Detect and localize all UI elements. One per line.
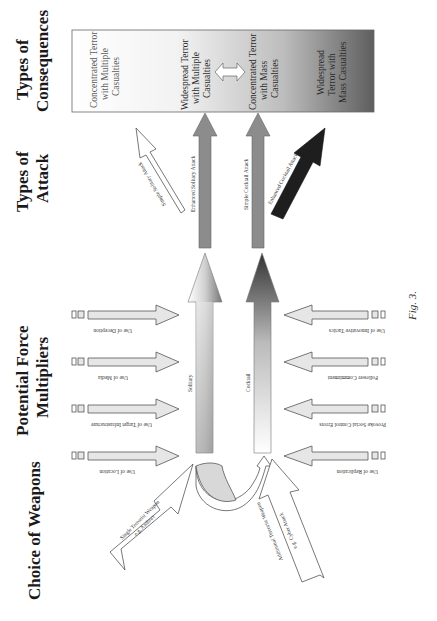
svg-text:with Multiple: with Multiple bbox=[100, 48, 110, 100]
header-types-of-consequences-line1: Types of bbox=[13, 39, 32, 100]
multipliers-left: Use of Deception Use of Media Use of Tar… bbox=[72, 305, 179, 475]
svg-text:Use of Innovative Tactics: Use of Innovative Tactics bbox=[329, 328, 385, 334]
multiplier-use-of-location: Use of Location bbox=[72, 446, 179, 475]
multiplier-follower-commitment: Follower Commitment bbox=[284, 352, 385, 381]
svg-text:with Multiple: with Multiple bbox=[191, 52, 201, 104]
svg-text:Mass Casualties: Mass Casualties bbox=[338, 41, 348, 103]
header-types-of-attack-line1: Types of bbox=[13, 151, 32, 212]
svg-text:Use of Target Infrastructure: Use of Target Infrastructure bbox=[90, 422, 152, 428]
arrow-cocktail-path: Cocktail bbox=[245, 253, 279, 453]
svg-text:Follower Commitment: Follower Commitment bbox=[327, 375, 378, 381]
arrow-enhanced-cocktail-attack: Enhanced Cocktail Attack bbox=[267, 128, 325, 219]
svg-text:Simple Cocktail Attack: Simple Cocktail Attack bbox=[243, 158, 249, 210]
multiplier-use-of-replication: Use of Replication bbox=[284, 446, 385, 475]
arrow-single-terrorist-weapon: Single Terrorist Weapon e.g. Anthrax bbox=[110, 464, 193, 570]
headers: Choice of Weapons Potential Force Multip… bbox=[13, 10, 52, 600]
multiplier-use-of-deception: Use of Deception bbox=[72, 305, 179, 334]
svg-text:Use of Media: Use of Media bbox=[98, 375, 128, 381]
svg-text:Simple Solitary Attack: Simple Solitary Attack bbox=[136, 161, 166, 208]
arrow-solitary-path: Solitary bbox=[187, 253, 222, 453]
consequences-box: Concentrated Terror with Multiple Casual… bbox=[72, 30, 374, 112]
svg-text:Concentrated Terror: Concentrated Terror bbox=[248, 33, 258, 110]
arrow-enhanced-solitary-attack: Enhanced Solitary Attack bbox=[190, 113, 217, 248]
multiplier-use-of-media: Use of Media bbox=[72, 352, 179, 381]
svg-text:Provoke Social Control Errors: Provoke Social Control Errors bbox=[319, 422, 386, 428]
multiplier-provoke-social-control-errors: Provoke Social Control Errors bbox=[284, 399, 386, 428]
svg-text:Use of Location: Use of Location bbox=[99, 469, 135, 475]
svg-text:Use of Deception: Use of Deception bbox=[93, 328, 132, 334]
svg-text:Cocktail: Cocktail bbox=[245, 373, 251, 392]
figure-caption: Fig. 3. bbox=[406, 291, 418, 321]
svg-text:with Mass: with Mass bbox=[259, 60, 269, 100]
svg-text:Casualties: Casualties bbox=[111, 57, 121, 96]
header-choice-of-weapons: Choice of Weapons bbox=[25, 461, 44, 600]
svg-text:Enhanced Solitary Attack: Enhanced Solitary Attack bbox=[190, 156, 196, 212]
svg-text:Casualties: Casualties bbox=[202, 59, 212, 98]
svg-text:Solitary: Solitary bbox=[187, 374, 193, 392]
svg-text:Concentrated Terror: Concentrated Terror bbox=[89, 31, 99, 108]
arrow-additional-terrorist-weapon: Additional Terrorist Weapon e.g. Cyber A… bbox=[255, 459, 324, 582]
header-types-of-consequences-line2: Consequences bbox=[33, 10, 52, 112]
arrow-simple-solitary-attack: Simple Solitary Attack bbox=[136, 128, 185, 213]
svg-text:Casualties: Casualties bbox=[270, 59, 280, 98]
svg-text:Widespread: Widespread bbox=[316, 50, 326, 95]
svg-text:Use of Replication: Use of Replication bbox=[337, 469, 378, 475]
arrow-simple-cocktail-attack: Simple Cocktail Attack bbox=[243, 113, 270, 248]
header-types-of-attack-line2: Attack bbox=[33, 153, 52, 203]
svg-text:Widespread Terror: Widespread Terror bbox=[180, 38, 190, 110]
header-force-multipliers-line1: Potential Force bbox=[13, 325, 32, 436]
multiplier-use-of-target-infrastructure: Use of Target Infrastructure bbox=[72, 399, 179, 428]
force-multiplier-diagram: Choice of Weapons Potential Force Multip… bbox=[0, 0, 437, 621]
multiplier-use-of-innovative-tactics: Use of Innovative Tactics bbox=[284, 305, 385, 334]
multipliers-right: Use of Innovative Tactics Follower Commi… bbox=[284, 305, 386, 475]
svg-text:Terror with: Terror with bbox=[327, 53, 337, 96]
header-force-multipliers-line2: Multipliers bbox=[33, 336, 52, 418]
